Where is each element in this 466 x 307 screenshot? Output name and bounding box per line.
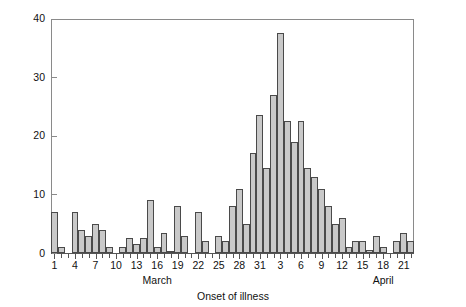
bar <box>181 236 188 254</box>
y-tick-label-40: 40 <box>21 13 45 23</box>
bar <box>359 241 366 253</box>
x-tick-mark <box>328 254 329 258</box>
bar <box>58 247 65 253</box>
bar <box>318 189 325 253</box>
bar <box>154 247 161 253</box>
bar <box>140 238 147 253</box>
x-tick-mark <box>315 254 316 258</box>
x-tick-mark <box>411 254 412 258</box>
bar <box>304 168 311 253</box>
x-tick-mark <box>308 254 309 258</box>
x-tick-mark <box>68 254 69 258</box>
x-tick-label: 15 <box>352 259 374 271</box>
x-tick-mark <box>356 254 357 258</box>
x-tick-label: 25 <box>208 259 230 271</box>
bar <box>400 233 407 254</box>
x-tick-mark <box>390 254 391 258</box>
x-tick-mark <box>191 254 192 258</box>
bar <box>126 238 133 253</box>
x-tick-mark <box>274 254 275 258</box>
x-tick-mark <box>109 254 110 258</box>
x-tick-mark <box>287 254 288 258</box>
x-tick-mark <box>123 254 124 258</box>
bar <box>380 247 387 253</box>
bar <box>106 247 113 253</box>
x-tick-label: 10 <box>105 259 127 271</box>
bar <box>311 177 318 253</box>
bar <box>167 251 174 253</box>
bar <box>256 115 263 253</box>
epidemic-curve-figure: Number of cases 010203040 14710131619222… <box>0 0 466 307</box>
bar <box>222 241 229 253</box>
y-tick-mark-30 <box>52 77 57 78</box>
bar <box>147 200 154 253</box>
y-tick-label-30: 30 <box>21 72 45 82</box>
x-tick-mark <box>349 254 350 258</box>
x-tick-label: 12 <box>331 259 353 271</box>
x-tick-label: 31 <box>249 259 271 271</box>
bar <box>119 247 126 253</box>
x-tick-mark <box>233 254 234 258</box>
bar <box>92 224 99 253</box>
bar <box>332 224 339 253</box>
x-tick-mark <box>226 254 227 258</box>
bar <box>72 212 79 253</box>
bar <box>291 142 298 253</box>
bar <box>236 189 243 253</box>
y-tick-mark-10 <box>52 194 57 195</box>
x-tick-label: 21 <box>393 259 415 271</box>
bar <box>352 241 359 253</box>
bar <box>229 206 236 253</box>
bar <box>133 244 140 253</box>
x-tick-mark <box>335 254 336 258</box>
x-tick-label: 4 <box>64 259 86 271</box>
x-tick-mark <box>253 254 254 258</box>
x-tick-label: 3 <box>269 259 291 271</box>
x-tick-mark <box>171 254 172 258</box>
x-tick-label: 22 <box>187 259 209 271</box>
bar <box>174 206 181 253</box>
x-tick-mark <box>267 254 268 258</box>
bar <box>270 95 277 253</box>
bar <box>407 241 414 253</box>
bar <box>250 153 257 253</box>
bar <box>99 230 106 253</box>
x-tick-mark <box>369 254 370 258</box>
x-tick-mark <box>205 254 206 258</box>
x-tick-label: 28 <box>228 259 250 271</box>
bar <box>243 224 250 253</box>
x-tick-label: 6 <box>290 259 312 271</box>
bar <box>298 121 305 253</box>
x-tick-mark <box>376 254 377 258</box>
x-tick-mark <box>246 254 247 258</box>
bar <box>51 212 58 253</box>
bar <box>346 247 353 253</box>
y-tick-label-10: 10 <box>21 189 45 199</box>
bar <box>339 218 346 253</box>
x-tick-mark <box>150 254 151 258</box>
bar <box>263 168 270 253</box>
bar <box>215 236 222 254</box>
x-tick-label: 1 <box>43 259 65 271</box>
x-tick-mark <box>61 254 62 258</box>
x-tick-label: 16 <box>146 259 168 271</box>
x-tick-mark <box>102 254 103 258</box>
x-tick-mark <box>397 254 398 258</box>
x-tick-mark <box>89 254 90 258</box>
bar <box>85 236 92 254</box>
bar <box>366 250 373 253</box>
x-tick-label: 19 <box>167 259 189 271</box>
bar <box>277 33 284 253</box>
x-tick-mark <box>212 254 213 258</box>
x-axis-month-label: April <box>348 274 418 286</box>
bar <box>284 121 291 253</box>
x-tick-label: 18 <box>372 259 394 271</box>
x-axis-title: Onset of illness <box>0 290 466 302</box>
y-tick-mark-20 <box>52 136 57 137</box>
x-axis-month-label: March <box>122 274 192 286</box>
bar <box>325 206 332 253</box>
x-tick-label: 9 <box>311 259 333 271</box>
x-tick-mark <box>294 254 295 258</box>
x-tick-mark <box>82 254 83 258</box>
bar <box>373 236 380 254</box>
